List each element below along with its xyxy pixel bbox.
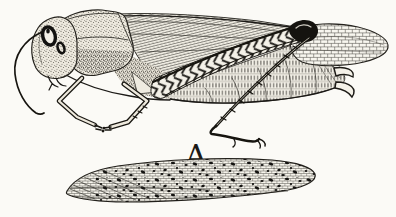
- engraving-figure: A: [0, 0, 396, 217]
- grasshopper-illustration: A: [0, 0, 396, 217]
